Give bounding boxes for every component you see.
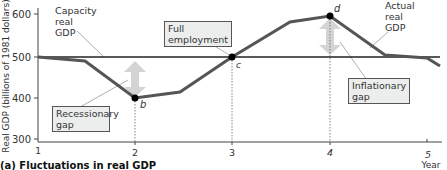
full-employment-label: Full employment <box>164 21 232 47</box>
capacity-label-line1: Capacity <box>55 5 97 16</box>
capacity-label-line3: GDP <box>55 27 76 38</box>
capacity-label-line2: real <box>55 16 73 27</box>
point-c-marker <box>229 54 236 61</box>
y-tick-300: 300 <box>12 134 31 145</box>
y-tick-600: 600 <box>12 9 31 20</box>
actual-label-line2: real <box>385 11 403 22</box>
figure-caption: (a) Fluctuations in real GDP <box>0 160 156 170</box>
leader-lines <box>77 31 388 107</box>
full-employment-line1: Full <box>168 23 228 34</box>
y-tick-400: 400 <box>12 93 31 104</box>
y-axis-label: Real GDP (billions of 1981 dollars) <box>1 0 11 153</box>
actual-gdp-label: Actual real GDP <box>385 0 415 33</box>
point-d-marker <box>327 13 334 20</box>
full-employment-line2: employment <box>168 34 228 45</box>
x-tick-3: 3 <box>229 147 235 158</box>
x-tick-5: 5 <box>425 149 431 160</box>
x-tick-1: 1 <box>35 146 41 156</box>
inflationary-line2: gap <box>352 91 406 102</box>
x-tick-4: 4 <box>327 147 333 158</box>
y-tick-500: 500 <box>12 52 31 63</box>
inflationary-gap-label: Inflationary gap <box>348 78 410 104</box>
point-b-marker <box>132 95 139 102</box>
actual-label-line1: Actual <box>385 0 415 11</box>
recessionary-line1: Recessionary <box>56 108 106 119</box>
point-c-label: c <box>236 60 241 70</box>
point-b-label: b <box>140 99 146 110</box>
actual-label-line3: GDP <box>385 22 406 33</box>
point-d-label: d <box>334 3 341 14</box>
inflationary-line1: Inflationary <box>352 80 406 91</box>
capacity-gdp-label: Capacity real GDP <box>55 5 97 38</box>
recessionary-gap-label: Recessionary gap <box>52 106 110 132</box>
recessionary-line2: gap <box>56 119 106 130</box>
x-axis-label: Year <box>420 160 440 170</box>
x-tick-2: 2 <box>132 147 138 158</box>
